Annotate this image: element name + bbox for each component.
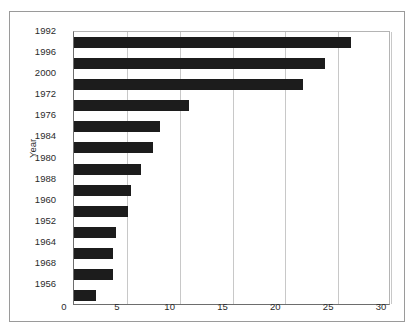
bar	[74, 227, 116, 238]
bar	[74, 121, 160, 132]
bar-chart-figure: Year 19921996200019721976198419801988196…	[0, 0, 415, 332]
bar	[74, 142, 153, 153]
y-tick-label: 1960	[0, 194, 56, 205]
bar-fill	[74, 121, 160, 132]
bar-fill	[74, 227, 116, 238]
y-axis-title: Year	[27, 139, 38, 158]
bar-fill	[74, 37, 351, 48]
y-tick-label: 1956	[0, 278, 56, 289]
bar-fill	[74, 290, 96, 301]
y-tick-label: 1952	[0, 215, 56, 226]
bar	[74, 185, 131, 196]
y-tick-label: 2000	[0, 67, 56, 78]
bar	[74, 58, 325, 69]
y-tick-label: 1996	[0, 46, 56, 57]
gridline	[180, 32, 181, 304]
bar	[74, 37, 351, 48]
bar-fill	[74, 269, 113, 280]
bar-fill	[74, 185, 131, 196]
y-tick-label: 1972	[0, 88, 56, 99]
bar	[74, 79, 303, 90]
bar-fill	[74, 206, 128, 217]
bar	[74, 206, 128, 217]
y-tick-label: 1964	[0, 236, 56, 247]
bar-fill	[74, 79, 303, 90]
bar-fill	[74, 58, 325, 69]
bar-fill	[74, 142, 153, 153]
gridline	[338, 32, 339, 304]
plot-area	[73, 31, 390, 305]
bar	[74, 248, 113, 259]
bar-fill	[74, 248, 113, 259]
bar	[74, 164, 141, 175]
bar	[74, 269, 113, 280]
bar	[74, 100, 189, 111]
y-tick-label: 1988	[0, 173, 56, 184]
gridline	[233, 32, 234, 304]
figure-frame: Year 19921996200019721976198419801988196…	[9, 11, 405, 322]
bar-fill	[74, 164, 141, 175]
y-tick-label: 1992	[0, 25, 56, 36]
y-tick-label: 1976	[0, 109, 56, 120]
bar-fill	[74, 100, 189, 111]
gridline	[285, 32, 286, 304]
gridline	[391, 32, 392, 304]
bar	[74, 290, 96, 301]
y-tick-label: 1968	[0, 257, 56, 268]
